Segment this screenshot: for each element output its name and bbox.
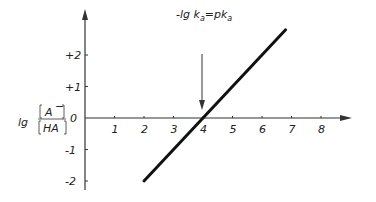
x-axis-arrow-icon: [340, 115, 352, 121]
x-tick-label: 8: [318, 123, 325, 136]
y-tick-label: -1: [65, 144, 76, 157]
x-tick-label: 7: [289, 123, 296, 136]
y-tick-label: +1: [65, 81, 81, 94]
y-axis-label: lg A − HA: [18, 100, 66, 135]
x-tick-label: 5: [230, 123, 237, 136]
x-tick-label: 2: [141, 123, 148, 136]
origin-label: 0: [70, 112, 77, 125]
svg-text:lg: lg: [18, 116, 28, 129]
svg-text:A: A: [44, 106, 53, 119]
svg-text:HA: HA: [43, 122, 59, 135]
x-tick-label: 1: [112, 123, 119, 136]
x-tick-label: 6: [259, 123, 266, 136]
annotation-arrow-icon: [199, 100, 205, 110]
y-tick-label: +2: [65, 49, 81, 62]
chart: 12345678 +2+1-1-2 -lg ka=pka lg A − HA 0: [0, 0, 376, 202]
x-ticks: 12345678: [112, 116, 326, 136]
svg-text:-lg ka=pka: -lg ka=pka: [176, 8, 232, 23]
x-tick-label: 4: [200, 123, 207, 136]
x-tick-label: 3: [171, 123, 178, 136]
svg-text:−: −: [55, 100, 64, 113]
y-tick-label: -2: [65, 175, 76, 188]
data-line: [144, 30, 286, 181]
y-axis-arrow-icon: [82, 9, 88, 20]
